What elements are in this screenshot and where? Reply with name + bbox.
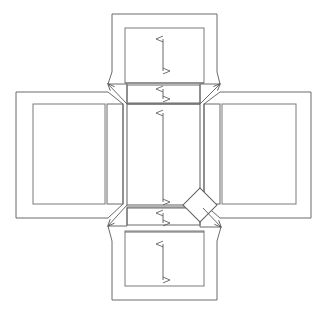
- cruciform-net-drawing: [0, 0, 327, 314]
- top-strip-outline: [127, 85, 200, 103]
- bottom-panel: [108, 208, 221, 300]
- panels-layer: [16, 14, 311, 300]
- left-panel: [16, 92, 123, 218]
- left-hinge-strip: [107, 104, 123, 204]
- center-panel-outline: [127, 104, 200, 205]
- right-hinge-strip: [204, 104, 220, 204]
- right-panel-inner: [222, 104, 296, 204]
- bottom-panel-inner: [125, 231, 204, 286]
- right-panel: [204, 92, 311, 218]
- top-panel-inner: [125, 28, 204, 83]
- top-strip: [127, 85, 200, 103]
- diagram-canvas: [0, 0, 327, 314]
- top-panel: [108, 14, 220, 104]
- left-panel-inner: [33, 104, 105, 204]
- center-panel: [127, 104, 200, 205]
